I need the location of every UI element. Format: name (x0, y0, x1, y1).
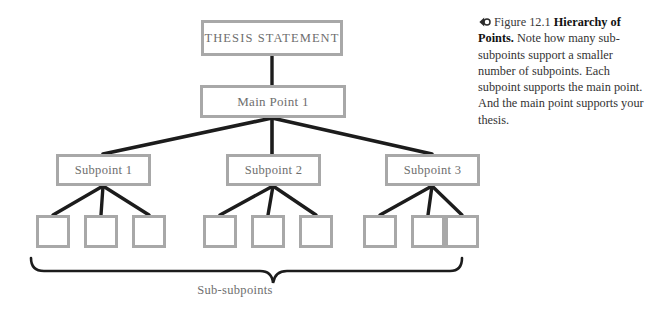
node-main-point-1-label: Main Point 1 (237, 95, 309, 108)
connector-lines (53, 56, 462, 215)
caption-body: Note how many sub-subpoints support a sm… (478, 31, 644, 126)
node-subpoint-2-label: Subpoint 2 (245, 164, 303, 177)
node-subpoint-3[interactable]: Subpoint 3 (385, 154, 480, 186)
node-subpoint-1-label: Subpoint 1 (75, 164, 133, 177)
node-thesis-statement[interactable]: THESIS STATEMENT (201, 20, 343, 56)
node-subpoint-3-label: Subpoint 3 (404, 164, 462, 177)
node-sub-subpoint[interactable] (445, 215, 479, 248)
node-sub-subpoint[interactable] (84, 215, 118, 248)
sub-subpoints-brace-label: Sub-subpoints (0, 283, 470, 298)
hierarchy-diagram: THESIS STATEMENT Main Point 1 Subpoint 1… (0, 0, 470, 312)
node-sub-subpoint[interactable] (132, 215, 166, 248)
sub-subpoints-brace (31, 258, 462, 283)
figure-12-1: THESIS STATEMENT Main Point 1 Subpoint 1… (0, 0, 655, 312)
node-main-point-1[interactable]: Main Point 1 (200, 85, 346, 118)
node-sub-subpoint[interactable] (363, 215, 397, 248)
node-sub-subpoint[interactable] (203, 215, 237, 248)
node-sub-subpoint[interactable] (411, 215, 445, 248)
node-sub-subpoint[interactable] (36, 215, 70, 248)
figure-caption: Figure 12.1 Hierarchy of Points. Note ho… (478, 14, 650, 128)
node-sub-subpoint[interactable] (251, 215, 285, 248)
caption-figure-number: Figure 12.1 (494, 15, 551, 29)
node-sub-subpoint[interactable] (299, 215, 333, 248)
audio-marker-icon (478, 17, 491, 27)
node-subpoint-2[interactable]: Subpoint 2 (226, 154, 321, 186)
node-thesis-statement-label: THESIS STATEMENT (204, 32, 339, 45)
node-subpoint-1[interactable]: Subpoint 1 (56, 154, 151, 186)
